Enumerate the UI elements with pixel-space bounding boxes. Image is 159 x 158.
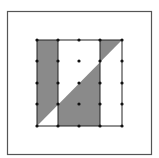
diagram-canvas [0, 0, 159, 158]
middle-shade [58, 62, 100, 126]
left-strip-shade [37, 40, 58, 126]
right-top-shade [100, 40, 122, 62]
